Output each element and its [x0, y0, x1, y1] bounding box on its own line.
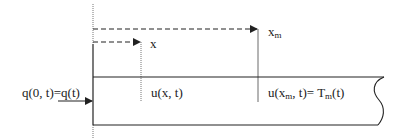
- xm-label-sub: m: [275, 30, 282, 40]
- u-xm-label: u(xm, t)= Tm(t): [268, 86, 344, 101]
- u-xm-prefix: u(x: [268, 85, 285, 100]
- u-xm-mid: , t)= T: [292, 85, 325, 100]
- flux-label-text: q(0, t)=q(t): [22, 85, 80, 100]
- x-label-text: x: [150, 36, 157, 51]
- u-xm-suffix: (t): [332, 85, 344, 100]
- flux-boundary-label: q(0, t)=q(t): [22, 86, 80, 99]
- rod-break-wave-icon: [374, 77, 384, 125]
- xm-label: xm: [268, 25, 282, 40]
- u-x-label: u(x, t): [151, 86, 183, 99]
- heat-rod-diagram: [0, 0, 409, 139]
- u-x-label-text: u(x, t): [151, 85, 183, 100]
- x-label: x: [150, 37, 157, 50]
